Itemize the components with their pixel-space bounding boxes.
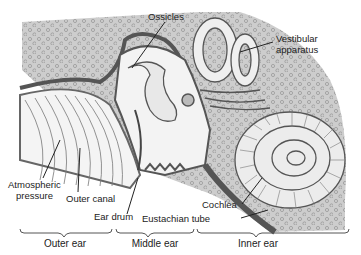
label-cochlea: Cochlea <box>202 200 237 210</box>
label-vestibular-2: apparatus <box>276 45 318 55</box>
label-outer-canal: Outer canal <box>66 194 115 204</box>
label-atmospheric-1: Atmospheric <box>8 180 61 190</box>
label-ossicles: Ossicles <box>148 12 184 22</box>
section-outer-ear: Outer ear <box>40 238 90 249</box>
label-atmospheric-2: pressure <box>16 191 53 201</box>
label-ear-drum: Ear drum <box>94 212 133 222</box>
label-vestibular-1: Vestibular <box>276 34 318 44</box>
cochlea <box>235 112 345 208</box>
section-middle-ear: Middle ear <box>128 238 182 249</box>
section-inner-ear: Inner ear <box>233 238 283 249</box>
label-eustachian-tube: Eustachian tube <box>142 214 210 224</box>
